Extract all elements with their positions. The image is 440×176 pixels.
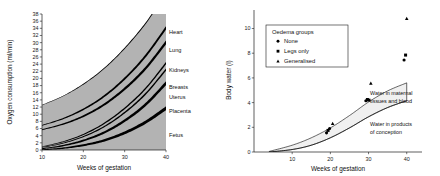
series-label-kidneys: Kidneys — [169, 67, 189, 73]
figure-container: 02468101214161820222426283032343638 1020… — [0, 0, 440, 176]
y-tick-label: 4 — [247, 100, 250, 106]
y-tick-label: 34 — [32, 25, 38, 31]
body-water-y-axis-title: Body water (l) — [225, 60, 233, 99]
data-point-triangle-10 — [405, 17, 409, 20]
y-tick-label: 22 — [32, 68, 38, 74]
data-point-square-9 — [404, 54, 407, 57]
series-label-breasts: Breasts — [169, 84, 188, 90]
series-label-placenta: Placenta — [169, 108, 192, 114]
series-label-uterus: Uterus — [169, 94, 186, 100]
annotation-conception-line2: of conception — [370, 129, 402, 135]
data-point-triangle-3 — [331, 122, 335, 125]
y-tick-label: 20 — [32, 75, 38, 81]
y-tick-label: 12 — [32, 104, 38, 110]
oxygen-chart-svg: 02468101214161820222426283032343638 1020… — [0, 0, 220, 176]
y-tick-label: 36 — [32, 18, 38, 24]
x-tick-label: 40 — [404, 156, 410, 162]
x-tick-label: 20 — [327, 156, 333, 162]
data-point-square-legend-1 — [277, 50, 280, 53]
legend-label-none: None — [284, 38, 298, 44]
oxygen-y-axis-title: Oxygen consumption (ml/min) — [6, 40, 14, 125]
annotation-maternal-line2: tissues and blood — [370, 98, 412, 104]
oxygen-y-ticks: 02468101214161820222426283032343638 — [32, 11, 42, 153]
y-tick-label: 10 — [244, 25, 250, 31]
oxygen-x-ticks: 10203040 — [39, 150, 169, 160]
y-tick-label: 18 — [32, 82, 38, 88]
y-tick-label: 30 — [32, 40, 38, 46]
annotation-conception-line1: Water in products — [370, 121, 412, 127]
body-water-y-ticks: 0246810 — [244, 25, 254, 154]
oxygen-x-axis-title: Weeks of gestation — [77, 164, 132, 172]
x-tick-label: 10 — [39, 154, 45, 160]
legend-title: Oedema groups — [272, 29, 314, 35]
data-point-triangle-7 — [369, 82, 373, 85]
oxygen-stacked-bands — [42, 0, 166, 150]
y-tick-label: 8 — [247, 50, 250, 56]
series-label-fetus: Fetus — [169, 132, 183, 138]
body-water-x-ticks: 10203040 — [289, 152, 410, 162]
y-tick-label: 32 — [32, 32, 38, 38]
x-tick-label: 40 — [163, 154, 169, 160]
body-water-chart-svg: 0246810 10203040 Weeks of gestation Body… — [220, 0, 440, 176]
x-tick-label: 30 — [122, 154, 128, 160]
y-tick-label: 0 — [247, 149, 250, 155]
y-tick-label: 2 — [35, 140, 38, 146]
oxygen-series-labels: HeartLungKidneysBreastsUterusPlacentaFet… — [169, 29, 192, 138]
y-tick-label: 0 — [35, 147, 38, 153]
y-tick-label: 6 — [35, 125, 38, 131]
y-tick-label: 4 — [35, 133, 38, 139]
x-tick-label: 10 — [289, 156, 295, 162]
legend-label-legs-only: Legs only — [284, 48, 309, 54]
y-tick-label: 14 — [32, 97, 38, 103]
y-tick-label: 8 — [35, 118, 38, 124]
y-tick-label: 26 — [32, 54, 38, 60]
y-tick-label: 24 — [32, 61, 38, 67]
series-label-heart: Heart — [169, 29, 183, 35]
data-point-circle-legend-0 — [277, 40, 280, 43]
chart-oxygen-consumption: 02468101214161820222426283032343638 1020… — [0, 0, 220, 176]
data-point-circle-2 — [328, 127, 331, 130]
series-label-lung: Lung — [169, 47, 181, 53]
oedema-groups-legend: Oedema groups NoneLegs onlyGeneralised — [266, 25, 348, 67]
legend-label-generalised: Generalised — [284, 58, 315, 64]
y-tick-label: 16 — [32, 90, 38, 96]
band-total-grey — [42, 0, 166, 150]
annotation-maternal-line1: Water in maternal — [370, 90, 412, 96]
y-tick-label: 2 — [247, 124, 250, 130]
x-tick-label: 20 — [80, 154, 86, 160]
chart-body-water: 0246810 10203040 Weeks of gestation Body… — [220, 0, 440, 176]
y-tick-label: 38 — [32, 11, 38, 17]
data-point-circle-8 — [402, 58, 405, 61]
y-tick-label: 28 — [32, 47, 38, 53]
y-tick-label: 10 — [32, 111, 38, 117]
x-tick-label: 30 — [366, 156, 372, 162]
body-water-x-axis-title: Weeks of gestation — [311, 165, 366, 173]
y-tick-label: 6 — [247, 75, 250, 81]
